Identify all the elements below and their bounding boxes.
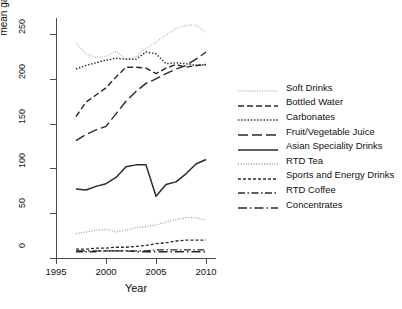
legend-item[interactable]: Soft Drinks	[238, 80, 402, 95]
series-line	[76, 240, 206, 249]
legend-item-label: RTD Tea	[286, 155, 323, 166]
legend-item-label: RTD Coffee	[286, 184, 336, 195]
legend-item[interactable]: RTD Coffee	[238, 182, 402, 197]
legend-item-label: Concentrates	[286, 199, 343, 210]
legend-line-swatch	[238, 82, 278, 92]
legend-item[interactable]: Fruit/Vegetable Juice	[238, 124, 402, 139]
legend-line-swatch	[238, 199, 278, 209]
series-line	[76, 65, 206, 117]
series-line	[76, 25, 206, 59]
legend: Soft DrinksBottled WaterCarbonatesFruit/…	[238, 80, 402, 211]
legend-item-label: Carbonates	[286, 111, 335, 122]
legend-line-swatch	[238, 97, 278, 107]
series-line	[76, 159, 206, 196]
legend-item[interactable]: Carbonates	[238, 109, 402, 124]
legend-line-swatch	[238, 111, 278, 121]
legend-line-swatch	[238, 141, 278, 151]
legend-item-label: Bottled Water	[286, 96, 343, 107]
series-line	[76, 218, 206, 234]
legend-line-swatch	[238, 126, 278, 136]
legend-item[interactable]: Sports and Energy Drinks	[238, 168, 402, 183]
legend-item[interactable]: RTD Tea	[238, 153, 402, 168]
legend-item[interactable]: Asian Speciality Drinks	[238, 138, 402, 153]
legend-item-label: Sports and Energy Drinks	[286, 169, 394, 180]
legend-item-label: Asian Speciality Drinks	[286, 140, 383, 151]
legend-item-label: Fruit/Vegetable Juice	[286, 126, 375, 137]
chart-figure: 050100150200250 1995200020052010 mean ga…	[0, 0, 402, 309]
legend-line-swatch	[238, 170, 278, 180]
legend-line-swatch	[238, 155, 278, 165]
series-line	[76, 52, 206, 141]
legend-item[interactable]: Bottled Water	[238, 95, 402, 110]
legend-line-swatch	[238, 184, 278, 194]
legend-item-label: Soft Drinks	[286, 82, 332, 93]
legend-item[interactable]: Concentrates	[238, 197, 402, 212]
